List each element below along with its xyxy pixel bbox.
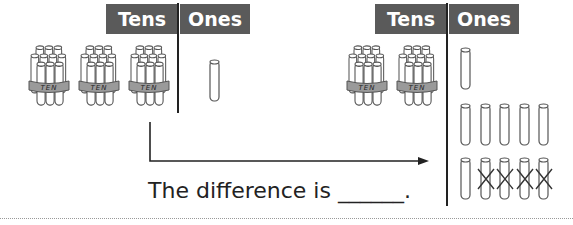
right-tens-bundle-2 [397, 46, 437, 105]
right-tens-bundle-1 [347, 46, 387, 105]
left-ones-rod [210, 60, 219, 101]
right-ones-rod [500, 104, 509, 145]
right-ones-rod [461, 158, 470, 199]
dotted-separator [0, 218, 573, 219]
left-tens-bundle-2 [79, 46, 119, 105]
right-ones-rod [520, 104, 529, 145]
left-tens-bundle-3 [129, 46, 169, 105]
difference-caption: The difference is ______. [148, 178, 411, 203]
right-ones-rod [461, 104, 470, 145]
right-ones-rod [481, 104, 490, 145]
left-tens-bundle-1 [29, 46, 69, 105]
right-ones-rod [539, 104, 548, 145]
arrow [150, 122, 429, 165]
right-ones-rod [461, 48, 470, 89]
